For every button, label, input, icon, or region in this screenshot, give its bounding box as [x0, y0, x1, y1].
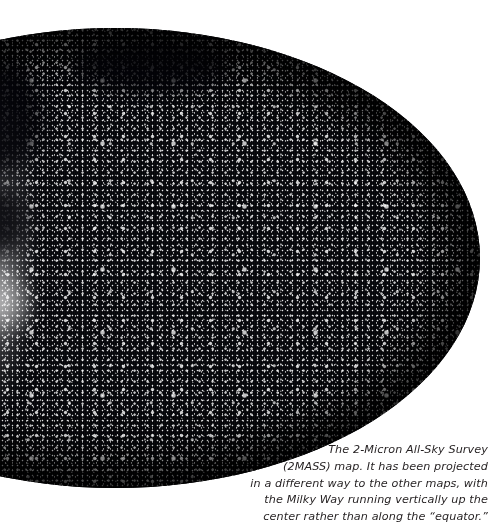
sky-map-ellipse [0, 28, 480, 488]
dust-lane-top-right [71, 37, 232, 92]
image-grain-overlay [0, 28, 480, 488]
all-sky-map-figure [0, 28, 480, 488]
caption-line: in a different way to the other maps, wi… [248, 476, 488, 493]
caption-line: (2MASS) map. It has been projected [248, 459, 488, 476]
caption-line: center rather than along the “equator.” [248, 509, 488, 526]
figure-page: The 2-Micron All-Sky Survey (2MASS) map.… [0, 0, 503, 530]
milky-way-bright-knot [0, 267, 42, 341]
caption-line: The 2-Micron All-Sky Survey [248, 442, 488, 459]
figure-caption: The 2-Micron All-Sky Survey (2MASS) map.… [248, 442, 488, 526]
caption-line: the Milky Way running vertically up the [248, 492, 488, 509]
